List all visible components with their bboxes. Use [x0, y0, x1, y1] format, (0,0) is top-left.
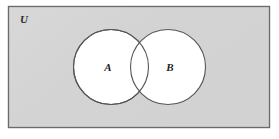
- venn-diagram-canvas: U A B: [0, 0, 279, 139]
- venn-diagram-figure: U A B: [0, 0, 279, 139]
- set-b-circle: [131, 30, 206, 105]
